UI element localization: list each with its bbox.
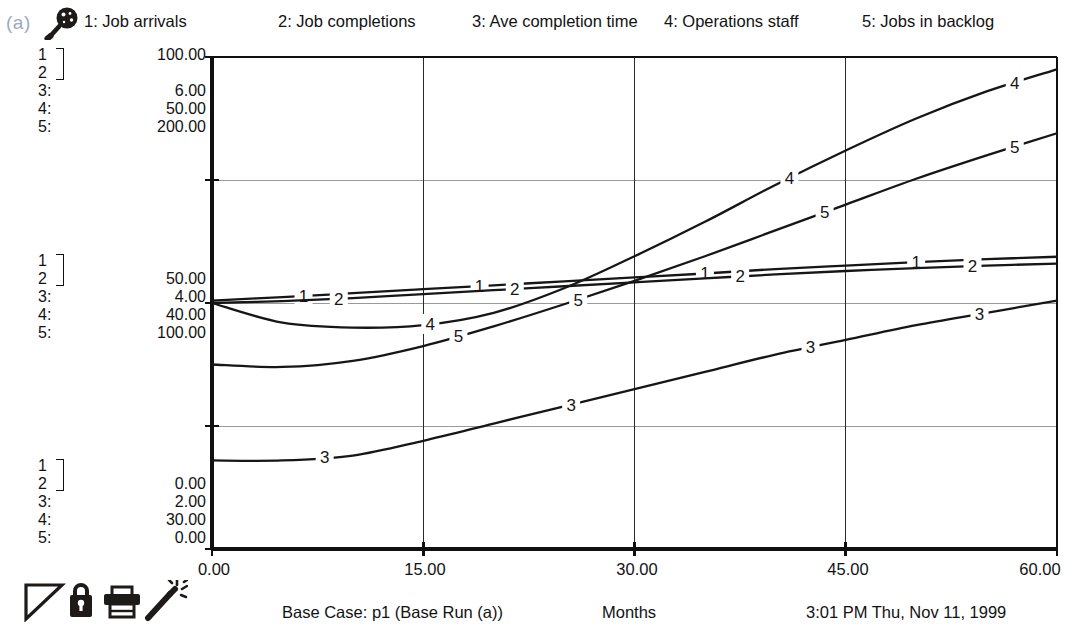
series-marker-label-2: 2 [510, 280, 519, 299]
graph-toolbar [22, 580, 187, 624]
series-marker-label-5: 5 [820, 203, 829, 222]
series-marker-label-3: 3 [975, 305, 984, 324]
plot-area[interactable]: 1111222233334445555 [0, 0, 1074, 628]
series-marker-label-5: 5 [454, 327, 463, 346]
x-tick-label-1: 15.00 [385, 560, 465, 579]
series-marker-label-2: 2 [334, 290, 343, 309]
x-tick-label-0: 0.00 [174, 560, 254, 579]
series-marker-label-2: 2 [735, 267, 744, 286]
triangle-tool-icon[interactable] [22, 580, 66, 626]
series-marker-label-4: 4 [785, 169, 794, 188]
series-marker-label-2: 2 [968, 257, 977, 276]
footer-timestamp: 3:01 PM Thu, Nov 11, 1999 [806, 603, 1006, 622]
series-marker-label-3: 3 [806, 338, 815, 357]
x-tick-label-2: 30.00 [597, 560, 677, 579]
series-marker-label-4: 4 [426, 315, 435, 334]
series-marker-label-3: 3 [566, 396, 575, 415]
printer-icon[interactable] [100, 580, 144, 626]
magic-wand-icon[interactable] [144, 580, 188, 626]
x-tick-label-4: 60.00 [1000, 560, 1074, 579]
series-marker-label-4: 4 [1010, 74, 1019, 93]
series-marker-label-1: 1 [475, 277, 484, 296]
series-marker-label-1: 1 [700, 264, 709, 283]
lock-icon[interactable] [66, 580, 96, 626]
footer-base-case: Base Case: p1 (Base Run (a)) [282, 603, 503, 622]
footer-time-unit: Months [602, 603, 656, 622]
series-marker-label-5: 5 [573, 291, 582, 310]
series-marker-label-3: 3 [320, 448, 329, 467]
series-marker-label-5: 5 [1010, 138, 1019, 157]
x-tick-label-3: 45.00 [808, 560, 888, 579]
simulation-graph-window: (a) 1: Job arrivals 2: Job completions 3… [0, 0, 1074, 628]
series-marker-label-1: 1 [299, 287, 308, 306]
